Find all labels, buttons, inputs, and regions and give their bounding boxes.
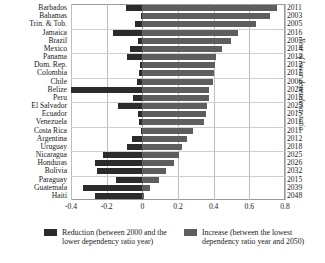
bar-reduction [113, 30, 142, 36]
bar-reduction [126, 5, 142, 11]
legend-label-reduction: Reduction (between 2000 and the lower de… [62, 228, 169, 246]
x-tick-label: -0.4 [65, 202, 77, 211]
y2-axis-title: Year of lower dependency ratio [297, 38, 306, 158]
dependency-ratio-chart: BarbadosBahamasTrin. & Tob.JamaicaBrazil… [0, 0, 325, 263]
bar-increase [142, 54, 216, 60]
bar-increase [142, 38, 230, 44]
gridline-horizontal [71, 176, 285, 177]
bar-increase [142, 46, 221, 52]
plot-area [71, 4, 285, 200]
x-tick-label: -0.2 [101, 202, 113, 211]
bar-increase [142, 79, 212, 85]
bar-increase [142, 13, 270, 19]
bar-reduction [95, 160, 142, 166]
bar-increase [142, 136, 187, 142]
year-label: 2048 [287, 192, 302, 200]
category-axis-labels: BarbadosBahamasTrin. & Tob.JamaicaBrazil… [0, 4, 69, 200]
bar-reduction [103, 152, 142, 158]
category-label: Haiti [52, 192, 67, 200]
bar-increase [142, 70, 213, 76]
legend-swatch-increase [184, 229, 197, 236]
bar-increase [142, 185, 150, 191]
bar-increase [142, 128, 193, 134]
bar-increase [142, 95, 209, 101]
legend-swatch-reduction [44, 229, 57, 236]
x-tick-label: 0 [140, 202, 144, 211]
gridline-vertical [285, 4, 286, 200]
bar-reduction [116, 177, 142, 183]
legend-item-increase: Increase (between the lowest dependency … [184, 228, 319, 246]
bar-reduction [127, 54, 142, 60]
bar-increase [142, 111, 205, 117]
bar-increase [142, 62, 214, 68]
bar-reduction [127, 144, 142, 150]
x-tick-label: 0.8 [280, 202, 290, 211]
legend: Reduction (between 2000 and the lower de… [44, 228, 319, 262]
bar-increase [142, 177, 159, 183]
x-tick-label: 0.2 [173, 202, 183, 211]
bar-increase [142, 152, 179, 158]
bar-increase [142, 160, 173, 166]
bar-reduction [118, 103, 142, 109]
bar-reduction [97, 168, 142, 174]
x-axis: -0.4-0.200.20.40.60.8 [71, 200, 285, 216]
bar-increase [142, 5, 277, 11]
bar-increase [142, 87, 209, 93]
bar-reduction [133, 95, 142, 101]
bar-increase [142, 103, 207, 109]
legend-label-increase: Increase (between the lowest dependency … [202, 228, 319, 246]
bar-reduction [95, 193, 142, 199]
bar-reduction [132, 136, 143, 142]
bar-increase [142, 193, 144, 199]
bar-reduction [83, 185, 142, 191]
bar-reduction [135, 21, 142, 27]
bar-reduction [130, 46, 142, 52]
bar-increase [142, 119, 204, 125]
bar-increase [142, 168, 166, 174]
x-tick-label: 0.6 [245, 202, 255, 211]
legend-item-reduction: Reduction (between 2000 and the lower de… [44, 228, 169, 246]
bar-increase [142, 144, 182, 150]
bar-reduction [71, 87, 142, 93]
bar-increase [142, 21, 255, 27]
x-tick-label: 0.4 [209, 202, 219, 211]
bar-increase [142, 30, 237, 36]
